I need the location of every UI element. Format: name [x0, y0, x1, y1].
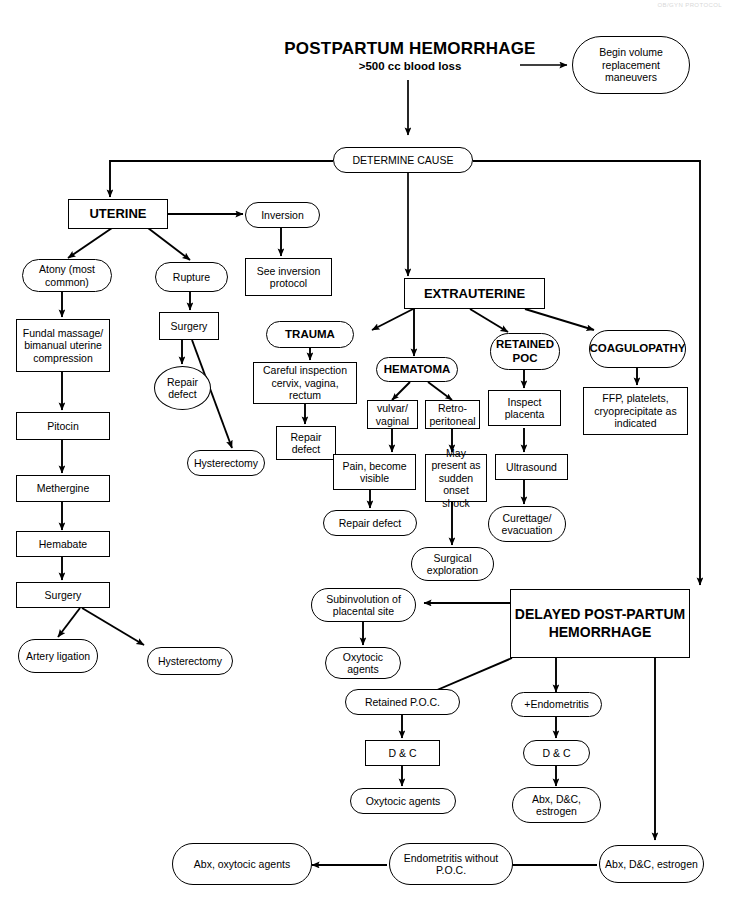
- node-atony-most-common[interactable]: Atony (most common): [22, 259, 112, 292]
- node-abx-dc-estrogen-right[interactable]: Abx, D&C, estrogen: [599, 845, 704, 883]
- node-artery-ligation[interactable]: Artery ligation: [18, 639, 98, 673]
- node-plus-endometritis[interactable]: +Endometritis: [511, 692, 602, 717]
- title-main-text: POSTPARTUM HEMORRHAGE: [258, 39, 562, 59]
- node-ultrasound[interactable]: Ultrasound: [495, 454, 568, 480]
- node-hysterectomy-atony[interactable]: Hysterectomy: [147, 647, 233, 675]
- node-vulvar-vaginal[interactable]: vulvar/ vaginal: [367, 400, 418, 429]
- node-uterine[interactable]: UTERINE: [68, 199, 168, 229]
- node-abx-dc-estrogen-endometritis[interactable]: Abx, D&C, estrogen: [512, 787, 601, 823]
- node-repair-defect-rupture[interactable]: Repair defect: [154, 366, 211, 410]
- node-retained-poc-delayed[interactable]: Retained P.O.C.: [345, 689, 460, 715]
- node-dc-endometritis[interactable]: D & C: [523, 740, 590, 766]
- node-extrauterine[interactable]: EXTRAUTERINE: [404, 278, 545, 309]
- faint-header-text: OB/GYN PROTOCOL: [657, 2, 722, 8]
- node-rupture[interactable]: Rupture: [155, 262, 228, 292]
- node-abx-oxytocic-agents[interactable]: Abx, oxytocic agents: [172, 843, 312, 885]
- node-ffp-platelets-cryoprecipitate[interactable]: FFP, platelets, cryoprecipitate as indic…: [583, 387, 688, 435]
- node-hemabate[interactable]: Hemabate: [16, 531, 110, 557]
- node-trauma[interactable]: TRAUMA: [266, 321, 354, 348]
- node-see-inversion-protocol[interactable]: See inversion protocol: [245, 258, 332, 296]
- page-title: POSTPARTUM HEMORRHAGE >500 cc blood loss: [255, 38, 565, 80]
- node-coagulopathy[interactable]: COAGULOPATHY: [589, 330, 686, 368]
- title-sub-text: >500 cc blood loss: [258, 60, 562, 74]
- node-fundal-massage-bimanual-compression[interactable]: Fundal massage/ bimanual uterine compres…: [16, 319, 110, 372]
- node-careful-inspection[interactable]: Careful inspection cervix, vagina, rectu…: [253, 362, 357, 404]
- node-pitocin[interactable]: Pitocin: [16, 412, 110, 440]
- node-inversion[interactable]: Inversion: [245, 202, 320, 228]
- node-hematoma[interactable]: HEMATOMA: [376, 357, 458, 382]
- node-begin-volume-replacement[interactable]: Begin volume replacement maneuvers: [572, 36, 690, 94]
- node-endometritis-without-poc[interactable]: Endometritis without P.O.C.: [389, 843, 513, 885]
- node-repair-defect-trauma[interactable]: Repair defect: [276, 426, 336, 460]
- node-surgical-exploration[interactable]: Surgical exploration: [411, 547, 494, 581]
- flowchart-page: OB/GYN PROTOCOL: [0, 0, 730, 915]
- node-determine-cause[interactable]: DETERMINE CAUSE: [333, 147, 473, 173]
- node-curettage-evacuation[interactable]: Curettage/ evacuation: [488, 506, 566, 542]
- node-surgery-atony[interactable]: Surgery: [16, 582, 110, 608]
- node-retained-poc[interactable]: RETAINED POC: [490, 333, 560, 370]
- node-oxytocic-agents-poc[interactable]: Oxytocic agents: [350, 788, 456, 814]
- node-hysterectomy-rupture[interactable]: Hysterectomy: [187, 450, 265, 476]
- node-inspect-placenta[interactable]: Inspect placenta: [488, 390, 561, 426]
- node-dc-retained-poc[interactable]: D & C: [365, 740, 440, 766]
- node-retroperitoneal[interactable]: Retro- peritoneal: [425, 400, 480, 429]
- node-pain-become-visible[interactable]: Pain, become visible: [333, 454, 416, 490]
- node-subinvolution-placental-site[interactable]: Subinvolution of placental site: [311, 588, 416, 622]
- node-repair-defect-hematoma[interactable]: Repair defect: [323, 510, 417, 536]
- node-oxytocic-agents-subinvolution[interactable]: Oxytocic agents: [325, 647, 401, 679]
- node-delayed-postpartum-hemorrhage[interactable]: DELAYED POST-PARTUM HEMORRHAGE: [510, 589, 690, 658]
- node-surgery-rupture[interactable]: Surgery: [159, 312, 219, 340]
- node-may-present-sudden-onset-shock[interactable]: May present as sudden onset shock: [425, 454, 487, 502]
- node-methergine[interactable]: Methergine: [16, 475, 110, 502]
